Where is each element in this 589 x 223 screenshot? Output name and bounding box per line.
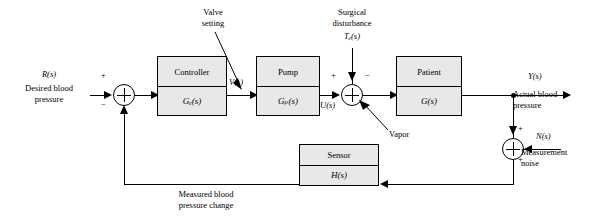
summing-junction-1 xyxy=(113,84,135,106)
sensor-feedback-down-wire xyxy=(513,160,514,185)
disturbance-arrowhead xyxy=(347,72,358,85)
patient-transfer-function: G(s) xyxy=(397,86,461,115)
input-description-line1: Desired blood xyxy=(8,84,90,94)
sum1-feedback-arrowhead xyxy=(119,105,130,118)
output-wire xyxy=(462,95,514,96)
vapor-label: Vapor xyxy=(389,130,409,140)
noise-description-line2: noise xyxy=(521,159,539,169)
sensor-transfer-function: H(s) xyxy=(300,165,378,185)
measured-feedback-wire xyxy=(124,184,299,185)
sensor-input-arrowhead xyxy=(378,179,390,190)
pump-output-signal-label: U(s) xyxy=(320,101,335,111)
patient-block: Patient G(s) xyxy=(396,56,462,116)
surgical-caption-line1: Surgical xyxy=(311,8,393,18)
noise-description-line1: Measurement xyxy=(521,148,567,158)
pump-block-title: Pump xyxy=(257,57,319,87)
sensor-block: Sensor H(s) xyxy=(299,144,379,186)
feedback-caption-line2: pressure change xyxy=(136,201,276,211)
output-description-line1: Actual blood xyxy=(513,90,557,100)
output-signal-label: Y(s) xyxy=(528,72,542,82)
disturbance-signal-label: Tₑ(s) xyxy=(311,32,393,42)
valve-setting-leader-line xyxy=(214,32,254,92)
pump-transfer-function: Gₚ(s) xyxy=(257,86,319,115)
sensor-block-title: Sensor xyxy=(300,145,378,166)
output-arrowhead xyxy=(563,90,575,101)
valve-setting-caption-line1: Valve xyxy=(180,8,246,18)
block-diagram: R(s) Desired blood pressure + − Controll… xyxy=(0,0,589,223)
input-description-line2: pressure xyxy=(8,95,90,105)
sum2-plus-sign: + xyxy=(331,71,336,81)
valve-setting-caption-line2: setting xyxy=(180,19,246,29)
patient-block-title: Patient xyxy=(397,57,461,87)
pump-block: Pump Gₚ(s) xyxy=(256,56,320,116)
measured-feedback-up-wire xyxy=(124,107,125,185)
sensor-feedback-wire xyxy=(384,184,514,185)
sum2-minus-sign: − xyxy=(365,71,370,81)
sum1-minus-sign: − xyxy=(101,100,106,110)
surgical-caption-line2: disturbance xyxy=(311,19,393,29)
sum1-plus-sign: + xyxy=(101,71,106,81)
sum3-plus-top-sign: + xyxy=(518,124,523,134)
feedback-caption-line1: Measured blood xyxy=(136,190,276,200)
noise-signal-label: N(s) xyxy=(536,132,551,142)
input-signal-label: R(s) xyxy=(22,70,76,80)
output-description-line2: pressure xyxy=(513,101,541,111)
